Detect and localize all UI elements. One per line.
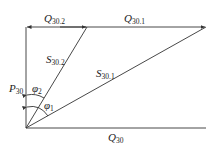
label-p30: P30 <box>8 82 23 96</box>
power-triangle-diagram: Q30.2 Q30.1 S30.2 S30.1 P30 φ2 φ1 Q30 <box>0 0 217 149</box>
diagram-canvas: Q30.2 Q30.1 S30.2 S30.1 P30 φ2 φ1 Q30 <box>0 0 217 149</box>
s302-line <box>26 27 87 128</box>
label-q30: Q30 <box>108 131 124 145</box>
label-phi2: φ2 <box>32 82 42 96</box>
label-q302: Q30.2 <box>44 12 65 26</box>
label-s302: S30.2 <box>46 53 65 67</box>
label-phi1: φ1 <box>44 99 54 113</box>
label-q301: Q30.1 <box>124 12 145 26</box>
label-s301: S30.1 <box>96 67 115 81</box>
